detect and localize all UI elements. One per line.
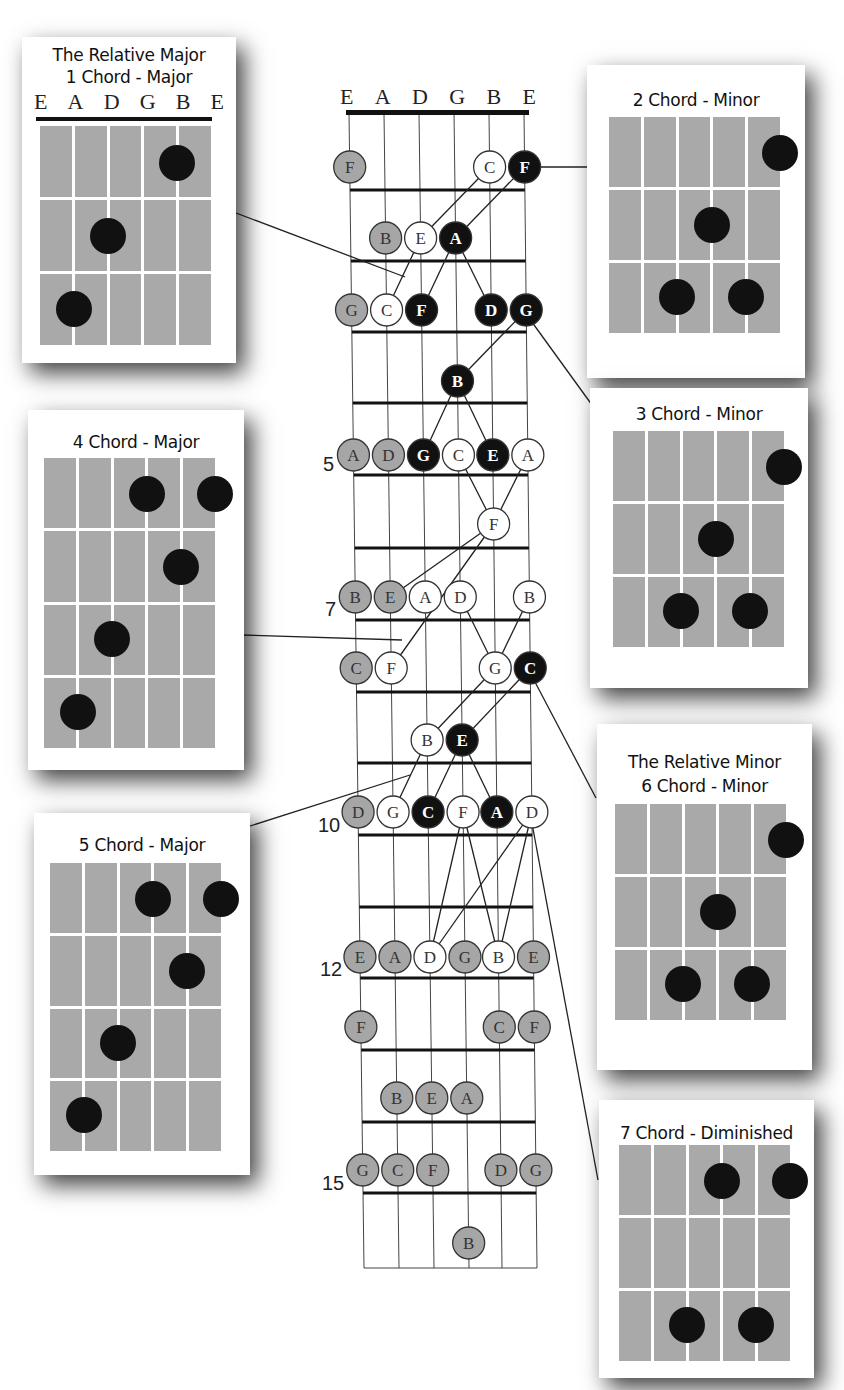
grid-cell: [179, 200, 211, 271]
string-label: E: [340, 84, 353, 110]
note-A-white: A: [409, 581, 441, 613]
string-label: E: [523, 84, 536, 110]
svg-text:C: C: [392, 1161, 403, 1180]
svg-text:E: E: [528, 948, 538, 967]
svg-text:B: B: [421, 731, 432, 750]
card-title: 3 Chord - Minor: [590, 404, 808, 425]
svg-text:B: B: [350, 588, 361, 607]
svg-text:E: E: [456, 731, 467, 750]
chord-card-3-minor: 3 Chord - Minor: [590, 388, 808, 688]
card-title-line-1: The Relative Major: [22, 45, 236, 66]
note-C-white: C: [442, 439, 474, 471]
svg-text:E: E: [415, 229, 425, 248]
note-C-gray: C: [340, 652, 372, 684]
svg-text:D: D: [485, 301, 497, 320]
callout-line: [535, 682, 596, 798]
note-F-white: F: [447, 796, 479, 828]
grid-cell: [75, 126, 107, 197]
note-B-black: B: [441, 365, 473, 397]
svg-text:G: G: [520, 301, 533, 320]
finger-dot: [665, 966, 701, 1002]
svg-text:F: F: [428, 1161, 437, 1180]
note-E-black: E: [477, 439, 509, 471]
callout-line: [531, 818, 598, 1180]
grid-cell: [120, 1081, 152, 1151]
grid-cell: [613, 577, 645, 647]
grid-cell: [110, 274, 142, 345]
finger-dot: [772, 1163, 808, 1199]
svg-text:F: F: [356, 1018, 365, 1037]
svg-text:G: G: [530, 1161, 542, 1180]
svg-text:E: E: [427, 1089, 437, 1108]
chord-card-4-major: 4 Chord - Major: [28, 410, 244, 770]
note-F-gray: F: [334, 151, 366, 183]
chord-card-6-minor: The Relative Minor 6 Chord - Minor: [597, 724, 812, 1070]
grid-cell: [619, 1218, 651, 1288]
grid-cell: [114, 531, 146, 601]
grid-cell: [648, 431, 680, 501]
grid-cell: [85, 863, 117, 933]
grid-cell: [723, 1218, 755, 1288]
note-E-gray: E: [344, 941, 376, 973]
finger-dot: [734, 966, 770, 1002]
note-E-gray: E: [517, 941, 549, 973]
grid-cell: [689, 1218, 721, 1288]
finger-dot: [732, 593, 768, 629]
finger-dot: [663, 593, 699, 629]
string-label: A: [68, 89, 84, 115]
note-D-gray: D: [372, 439, 404, 471]
grid-cell: [615, 877, 647, 947]
fretboard-notes: FCFBEAGCFDGBADGCEAFBEADBCFGCBEDGCFADEADG…: [334, 151, 552, 1259]
note-B-white: B: [411, 724, 443, 756]
note-E-white: E: [405, 222, 437, 254]
grid-cell: [148, 678, 180, 748]
svg-text:B: B: [391, 1089, 402, 1108]
svg-text:A: A: [491, 803, 504, 822]
svg-text:C: C: [381, 301, 392, 320]
card-title-line-1: The Relative Minor: [597, 752, 812, 773]
note-B-gray: B: [370, 222, 402, 254]
string-label: A: [375, 84, 391, 110]
grid-cell: [609, 263, 641, 333]
note-B-gray: B: [453, 1227, 485, 1259]
finger-dot: [100, 1025, 136, 1061]
finger-dot: [169, 953, 205, 989]
string-label: E: [211, 89, 224, 115]
note-G-gray: G: [347, 1154, 379, 1186]
note-A-gray: A: [451, 1082, 483, 1114]
string-label: B: [487, 84, 502, 110]
finger-dot: [60, 694, 96, 730]
grid-cell: [619, 1291, 651, 1361]
note-B-gray: B: [339, 581, 371, 613]
string-label: D: [412, 84, 428, 110]
svg-text:B: B: [493, 948, 504, 967]
svg-text:F: F: [345, 158, 354, 177]
note-F-white: F: [375, 652, 407, 684]
card-title-line-2: 1 Chord - Major: [22, 67, 236, 88]
svg-text:G: G: [345, 301, 357, 320]
grid-cell: [713, 117, 745, 187]
note-G-black: G: [510, 294, 542, 326]
svg-text:F: F: [458, 803, 467, 822]
note-C-black: C: [412, 796, 444, 828]
card-title: 4 Chord - Major: [28, 432, 244, 453]
grid-cell: [748, 190, 780, 260]
finger-dot: [66, 1097, 102, 1133]
grid-cell: [644, 117, 676, 187]
svg-text:F: F: [530, 1018, 539, 1037]
svg-text:F: F: [386, 659, 395, 678]
fret-marker-7: 7: [325, 598, 336, 621]
svg-text:D: D: [495, 1161, 507, 1180]
svg-text:B: B: [524, 588, 535, 607]
note-C-gray: C: [382, 1154, 414, 1186]
note-F-black: F: [406, 294, 438, 326]
note-E-gray: E: [416, 1082, 448, 1114]
grid-cell: [50, 936, 82, 1006]
svg-text:D: D: [352, 803, 364, 822]
grid-cell: [40, 200, 72, 271]
note-D-white: D: [516, 796, 548, 828]
finger-dot: [659, 279, 695, 315]
svg-text:E: E: [355, 948, 365, 967]
grid-cell: [44, 605, 76, 675]
svg-text:F: F: [519, 158, 529, 177]
